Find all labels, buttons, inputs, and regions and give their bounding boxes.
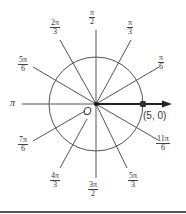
ray-pi-6 (96, 67, 159, 104)
origin-label: O (83, 107, 92, 115)
label-den: 6 (161, 144, 165, 152)
label-pi-axis: π (10, 99, 15, 107)
label-den: 2 (90, 18, 94, 26)
label-5pi-6: 5π6 (18, 55, 28, 73)
label-11pi-6: 11π6 (156, 134, 170, 152)
label-den: 3 (53, 28, 57, 36)
point-label: (5, 0) (143, 112, 166, 120)
point-marker (140, 101, 146, 107)
label-den: 3 (128, 28, 132, 36)
label-pi-3: π3 (127, 18, 133, 36)
label-den: 6 (21, 145, 25, 153)
arrowhead-icon (162, 101, 172, 108)
label-pi-6: π6 (158, 53, 164, 71)
label-5pi-3: 5π3 (128, 171, 138, 189)
label-den: 2 (91, 190, 95, 198)
ray-pi-3 (96, 40, 131, 104)
ray-4pi-3 (60, 119, 87, 168)
bottom-divider (0, 211, 186, 213)
ray-5pi-3 (96, 104, 127, 168)
label-3pi-2: 3π2 (88, 180, 98, 198)
label-4pi-3: 4π3 (50, 171, 60, 189)
label-2pi-3: 2π3 (50, 18, 60, 36)
label-den: 3 (131, 181, 135, 189)
label-7pi-6: 7π6 (18, 135, 28, 153)
label-den: 6 (159, 63, 163, 71)
ray-5pi-6 (33, 67, 96, 104)
label-den: 3 (53, 181, 57, 189)
origin-dot (94, 102, 98, 106)
label-den: 6 (21, 65, 25, 73)
ray-2pi-3 (60, 40, 96, 104)
label-pi-2: π2 (89, 8, 95, 26)
